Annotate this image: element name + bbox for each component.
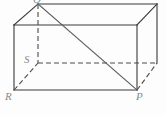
vertex-label-p: P <box>136 91 143 102</box>
vertex-label-q: Q <box>33 0 41 5</box>
vertex-label-s: S <box>24 54 30 65</box>
edge-bottom-right-connector <box>137 63 157 90</box>
hidden-edge-group <box>14 4 157 90</box>
solid-edge-group <box>14 4 157 90</box>
edge-bottom-left-connector <box>14 63 38 90</box>
vertex-label-r: R <box>5 91 12 102</box>
prism-figure: R P S Q <box>0 0 166 115</box>
edge-top-left-connector <box>14 4 38 25</box>
diagonal-group <box>38 4 137 90</box>
space-diagonal-line <box>38 4 137 90</box>
edge-top-right-connector <box>137 4 157 25</box>
